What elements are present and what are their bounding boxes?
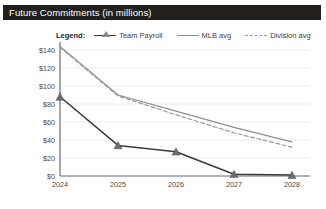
series-line <box>60 46 292 141</box>
x-tick-label: 2028 <box>284 180 300 189</box>
chart-canvas: $0$20$40$60$80$100$120$140 2024202520262… <box>0 0 326 209</box>
y-tick-label: $120 <box>39 64 55 73</box>
data-point-marker <box>56 93 64 100</box>
y-tick-label: $140 <box>39 46 55 55</box>
x-tick-label: 2024 <box>52 180 68 189</box>
series-line <box>60 47 292 147</box>
y-tick-label: $40 <box>43 136 55 145</box>
x-tick-label: 2027 <box>226 180 242 189</box>
y-tick-label: $60 <box>43 118 55 127</box>
y-tick-label: $100 <box>39 82 55 91</box>
data-series-layer <box>56 46 296 178</box>
chart-widget: Future Commitments (in millions) Legend:… <box>0 0 326 209</box>
x-axis-ticks: 20242025202620272028 <box>52 180 300 189</box>
y-axis-ticks: $0$20$40$60$80$100$120$140 <box>39 46 55 181</box>
series-line <box>60 97 292 175</box>
y-tick-label: $80 <box>43 100 55 109</box>
chart-plot-area: $0$20$40$60$80$100$120$140 2024202520262… <box>0 0 326 209</box>
y-tick-label: $20 <box>43 154 55 163</box>
gridlines <box>60 50 310 176</box>
x-tick-label: 2025 <box>110 180 126 189</box>
x-tick-label: 2026 <box>168 180 184 189</box>
